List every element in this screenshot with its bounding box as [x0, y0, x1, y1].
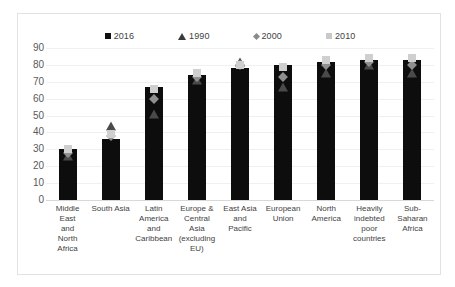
- x-axis-label-line: Africa: [392, 224, 433, 234]
- x-axis-label-line: and: [47, 224, 88, 234]
- x-axis-label: NorthAmerica: [305, 204, 348, 254]
- x-axis-label-line: East: [47, 214, 88, 224]
- bar-2016[interactable]: [102, 139, 120, 200]
- x-axis-label-line: EU): [176, 244, 217, 254]
- x-axis-label: South Asia: [89, 204, 132, 254]
- x-axis-label-line: Africa: [47, 244, 88, 254]
- x-axis-label-line: Union: [263, 214, 304, 224]
- bar-2016[interactable]: [317, 62, 335, 200]
- x-axis-label-line: poor: [349, 224, 390, 234]
- bar-group[interactable]: [89, 48, 132, 200]
- y-axis-tick-label: 70: [33, 77, 44, 87]
- x-axis-label-line: indebted: [349, 214, 390, 224]
- x-axis-label-line: Latin: [133, 204, 174, 214]
- bar-group[interactable]: [305, 48, 348, 200]
- x-axis-label: LatinAmericaandCaribbean: [132, 204, 175, 254]
- y-axis-tick-label: 50: [33, 111, 44, 121]
- bar-group[interactable]: [348, 48, 391, 200]
- plot-area: [46, 48, 434, 200]
- marker-2010[interactable]: [150, 85, 158, 93]
- x-axis-label-line: Sub-: [392, 204, 433, 214]
- x-axis-label: MiddleEastandNorthAfrica: [46, 204, 89, 254]
- marker-2010[interactable]: [322, 56, 330, 64]
- bar-2016[interactable]: [188, 75, 206, 200]
- marker-2010[interactable]: [408, 54, 416, 62]
- bar-group[interactable]: [262, 48, 305, 200]
- x-axis-label-line: North: [47, 234, 88, 244]
- axis-baseline: [46, 200, 434, 201]
- x-axis-label-line: European: [263, 204, 304, 214]
- x-axis-label-line: America: [133, 214, 174, 224]
- marker-1990[interactable]: [278, 82, 288, 91]
- x-axis-label-line: (excluding: [176, 234, 217, 244]
- x-axis-category-labels: MiddleEastandNorthAfricaSouth AsiaLatinA…: [46, 204, 434, 254]
- marker-2010[interactable]: [365, 54, 373, 62]
- y-axis-tick-label: 90: [33, 43, 44, 53]
- y-axis-tick-label: 80: [33, 60, 44, 70]
- x-axis-label-line: Europe &: [176, 204, 217, 214]
- y-axis-tick-label: 30: [33, 144, 44, 154]
- x-axis-label: EuropeanUnion: [262, 204, 305, 254]
- y-axis: 9080706050403020100: [22, 48, 44, 200]
- marker-2010[interactable]: [64, 145, 72, 153]
- x-axis-label-line: Saharan: [392, 214, 433, 224]
- bar-group[interactable]: [46, 48, 89, 200]
- marker-1990[interactable]: [321, 69, 331, 78]
- x-axis-label-line: Heavily: [349, 204, 390, 214]
- chart-container: 2016199020002010 9080706050403020100 Mid…: [17, 13, 441, 275]
- y-axis-tick-label: 20: [33, 161, 44, 171]
- y-axis-tick-label: 0: [38, 195, 44, 205]
- x-axis-label: Europe &CentralAsia(excludingEU): [175, 204, 218, 254]
- x-axis-label-line: Pacific: [219, 224, 260, 234]
- marker-2010[interactable]: [279, 63, 287, 71]
- bar-group[interactable]: [218, 48, 261, 200]
- x-axis-label-line: and: [133, 224, 174, 234]
- marker-1990[interactable]: [407, 69, 417, 78]
- x-axis-label: East AsiaandPacific: [218, 204, 261, 254]
- x-axis-label-line: North: [306, 204, 347, 214]
- x-axis-label-line: and: [219, 214, 260, 224]
- y-axis-tick-label: 40: [33, 127, 44, 137]
- x-axis-label-line: countries: [349, 234, 390, 244]
- x-axis-label-line: Central: [176, 214, 217, 224]
- marker-2010[interactable]: [193, 69, 201, 77]
- marker-1990[interactable]: [149, 109, 159, 118]
- marker-2010[interactable]: [236, 61, 244, 69]
- marker-1990[interactable]: [106, 121, 116, 130]
- x-axis-label-line: East Asia: [219, 204, 260, 214]
- y-axis-tick-label: 10: [33, 178, 44, 188]
- x-axis-label-line: Middle: [47, 204, 88, 214]
- x-axis-label: Heavilyindebtedpoorcountries: [348, 204, 391, 254]
- x-axis-label: Sub-SaharanAfrica: [391, 204, 434, 254]
- bar-group[interactable]: [391, 48, 434, 200]
- y-axis-tick-label: 60: [33, 94, 44, 104]
- x-axis-label-line: Asia: [176, 224, 217, 234]
- x-axis-label-line: America: [306, 214, 347, 224]
- bar-group[interactable]: [175, 48, 218, 200]
- plot-region: 9080706050403020100 MiddleEastandNorthAf…: [18, 14, 442, 276]
- x-axis-label-line: Caribbean: [133, 234, 174, 244]
- bar-2016[interactable]: [403, 60, 421, 200]
- bar-group[interactable]: [132, 48, 175, 200]
- marker-2010[interactable]: [107, 130, 115, 138]
- bar-2016[interactable]: [360, 60, 378, 200]
- bar-2016[interactable]: [231, 68, 249, 200]
- x-axis-label-line: South Asia: [90, 204, 131, 214]
- bar-series-group: [46, 48, 434, 200]
